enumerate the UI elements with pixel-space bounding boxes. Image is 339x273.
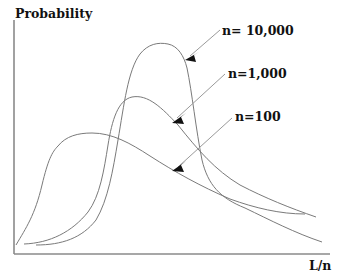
label-n-100: n=100 [235,109,281,124]
curve-n-100 [16,133,305,245]
arrowhead-n-10000-icon [185,52,199,62]
pointer-line-n-1000 [177,74,225,118]
pointer-line-n-10000 [190,30,220,56]
x-axis-label: L/n [309,258,331,273]
arrowhead-n-1000-icon [172,113,186,124]
label-n-10000: n= 10,000 [222,23,294,38]
pointer-line-n-100 [178,118,232,167]
y-axis-label: Probability [15,6,93,21]
label-n-1000: n=1,000 [228,66,287,81]
arrowhead-n-100-icon [172,161,186,172]
probability-distribution-chart: Probability L/n n= 10,000 n=1,000 n=100 [0,0,339,273]
